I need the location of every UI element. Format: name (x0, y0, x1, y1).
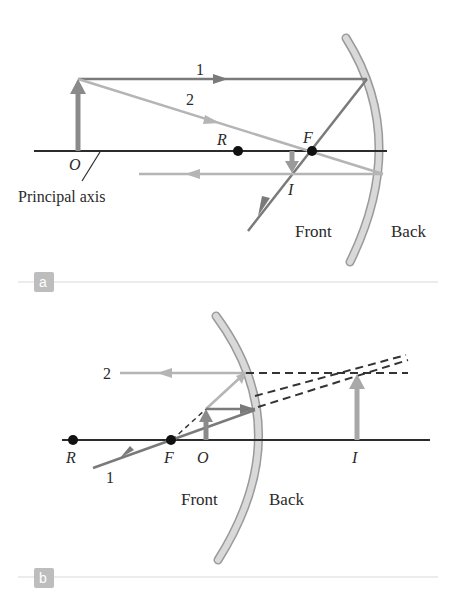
f-label: F (302, 129, 313, 146)
ray-2-label: 2 (186, 91, 194, 108)
panel-b: 2 1 R F O I Front Back b (18, 316, 438, 588)
ray-1b-label: 1 (106, 469, 114, 486)
ray-2-incident (78, 79, 383, 174)
o-label: O (69, 156, 81, 173)
ray-2b-incident (206, 374, 244, 409)
ray-1-label: 1 (196, 61, 204, 78)
r-label-b: R (65, 449, 76, 466)
back-label-b: Back (269, 490, 304, 509)
point-r (233, 146, 243, 156)
r-label: R (216, 131, 227, 148)
point-f-b (166, 435, 176, 445)
principal-axis-label: Principal axis (18, 188, 106, 206)
mirror-ray-diagram: 1 2 R F O I Principal axis Front Back a (0, 0, 459, 601)
back-label: Back (391, 222, 426, 241)
i-label: I (287, 181, 294, 198)
virtual-ray-1a (255, 355, 406, 396)
virtual-ray-f (172, 409, 206, 440)
o-label-b: O (197, 449, 209, 466)
point-r-b (68, 435, 78, 445)
front-label-b: Front (181, 490, 218, 509)
virtual-ray-1b (258, 360, 408, 407)
panel-a: 1 2 R F O I Principal axis Front Back a (18, 38, 438, 292)
panel-a-badge-text: a (39, 274, 47, 290)
f-label-b: F (163, 449, 174, 466)
front-label: Front (295, 222, 332, 241)
ray-2b-label: 2 (103, 365, 111, 382)
ray-1-reflected (248, 79, 367, 231)
panel-b-badge-text: b (39, 570, 47, 586)
point-f (307, 146, 317, 156)
i-label-b: I (351, 449, 358, 466)
